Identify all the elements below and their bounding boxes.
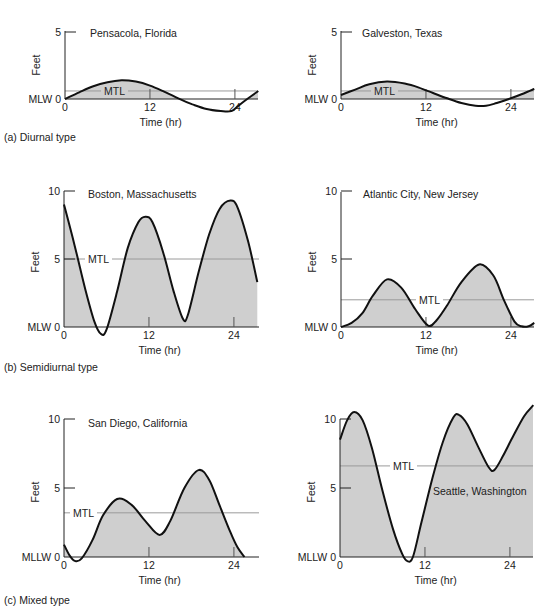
- x-axis-title: Time (hr): [414, 574, 456, 586]
- x-tick-label: 24: [228, 559, 240, 571]
- y-tick-label: MLW 0: [28, 321, 61, 333]
- x-tick-label: 24: [505, 101, 517, 113]
- caption-semidiurnal: (b) Semidiurnal type: [4, 361, 98, 373]
- x-tick-label: 12: [419, 559, 431, 571]
- x-tick-label: 0: [61, 559, 67, 571]
- x-tick-label: 12: [420, 329, 432, 341]
- y-tick-label: 5: [330, 482, 336, 494]
- y-tick-label: 5: [54, 482, 60, 494]
- mtl-label: MTL: [393, 460, 414, 472]
- mtl-label: MTL: [73, 507, 94, 519]
- y-tick-label: 5: [54, 253, 60, 265]
- y-axis-title: Feet: [29, 481, 41, 502]
- mtl-label: MTL: [374, 85, 395, 97]
- mtl-label: MTL: [104, 85, 125, 97]
- caption-diurnal: (a) Diurnal type: [4, 131, 76, 143]
- x-axis-title: Time (hr): [139, 116, 181, 128]
- y-tick-label: 5: [331, 253, 337, 265]
- y-tick-label: MLLW 0: [22, 551, 60, 563]
- y-tick-label: 5: [331, 26, 337, 38]
- tide-panels: MTLMLW 0501224Time (hr)FeetPensacola, Fl…: [22, 26, 535, 586]
- mtl-label: MTL: [419, 294, 440, 306]
- x-tick-label: 24: [228, 329, 240, 341]
- x-tick-label: 12: [420, 101, 432, 113]
- y-axis-title: Feet: [305, 481, 317, 502]
- x-tick-label: 24: [504, 559, 516, 571]
- panel-title-atlantic-city: Atlantic City, New Jersey: [363, 188, 479, 200]
- y-tick-label: 10: [48, 185, 60, 197]
- y-tick-label: MLW 0: [305, 321, 338, 333]
- panel-title-seattle: Seattle, Washington: [433, 485, 527, 497]
- y-tick-label: 10: [324, 413, 336, 425]
- y-tick-label: 5: [55, 26, 61, 38]
- panel-title-pensacola: Pensacola, Florida: [90, 27, 177, 39]
- y-axis-title: Feet: [306, 251, 318, 272]
- y-axis-title: Feet: [29, 251, 41, 272]
- tide-charts-figure: MTLMLW 0501224Time (hr)FeetPensacola, Fl…: [0, 0, 552, 613]
- panel-title-galveston: Galveston, Texas: [362, 27, 442, 39]
- tide-fill-seattle: [340, 405, 533, 562]
- panel-title-san-diego: San Diego, California: [88, 417, 187, 429]
- x-axis-title: Time (hr): [138, 574, 180, 586]
- y-tick-label: MLW 0: [305, 93, 338, 105]
- y-axis-title: Feet: [306, 54, 318, 75]
- y-tick-label: 10: [325, 185, 337, 197]
- x-tick-label: 12: [144, 101, 156, 113]
- x-tick-label: 0: [62, 101, 68, 113]
- mtl-label: MTL: [88, 253, 109, 265]
- x-tick-label: 0: [61, 329, 67, 341]
- x-tick-label: 0: [338, 101, 344, 113]
- y-tick-label: 10: [48, 413, 60, 425]
- caption-mixed: (c) Mixed type: [4, 594, 70, 606]
- x-axis-title: Time (hr): [415, 344, 457, 356]
- y-tick-label: MLLW 0: [298, 551, 336, 563]
- y-axis-title: Feet: [30, 54, 42, 75]
- x-tick-label: 12: [143, 329, 155, 341]
- x-axis-title: Time (hr): [415, 116, 457, 128]
- x-axis-title: Time (hr): [138, 344, 180, 356]
- x-tick-label: 0: [337, 559, 343, 571]
- panel-title-boston: Boston, Massachusetts: [88, 188, 197, 200]
- y-tick-label: MLW 0: [29, 93, 62, 105]
- x-tick-label: 12: [143, 559, 155, 571]
- x-tick-label: 0: [338, 329, 344, 341]
- x-tick-label: 24: [505, 329, 517, 341]
